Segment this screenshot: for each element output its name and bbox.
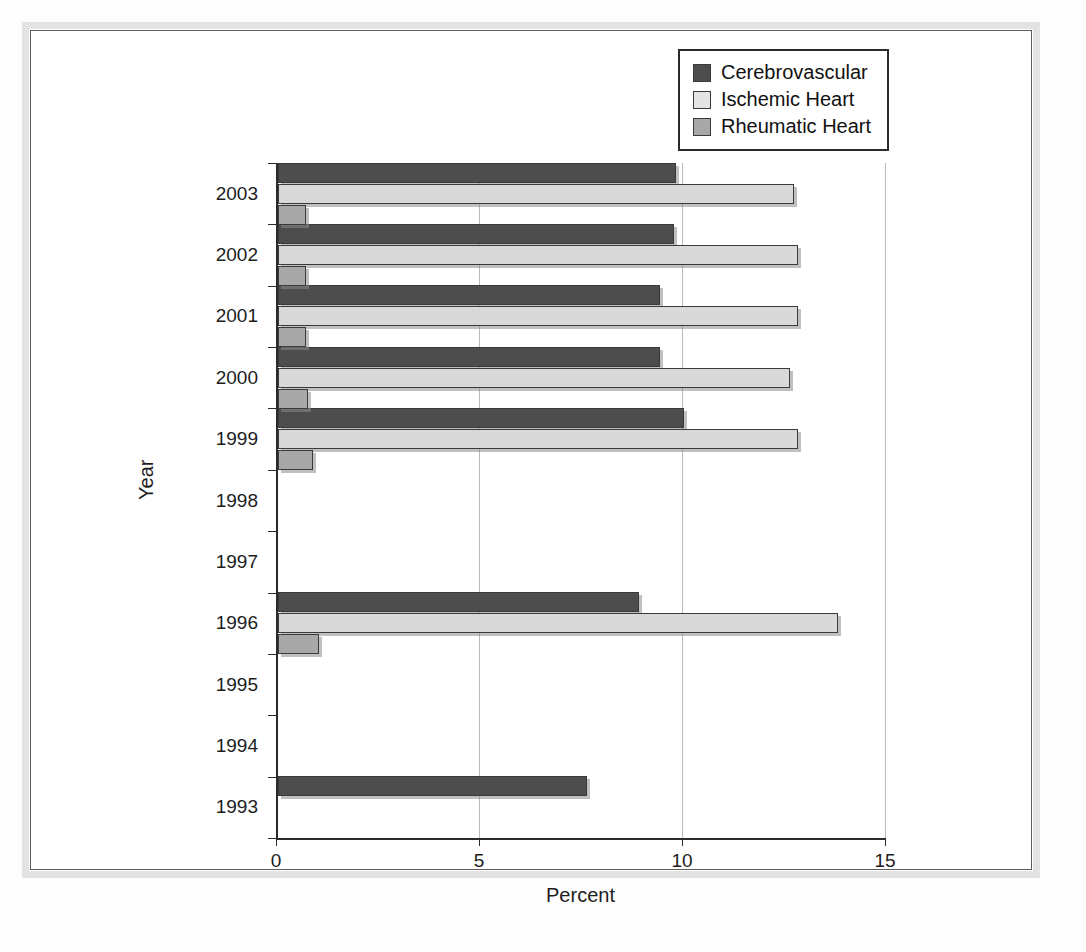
x-tick-label-5: 5: [474, 850, 485, 872]
bar-2003-ischemic-heart: [278, 184, 794, 204]
y-tick-label-2001: 2001: [216, 305, 258, 327]
x-tick-15: [885, 838, 886, 846]
x-axis-line: [276, 838, 885, 840]
bar-2000-ischemic-heart: [278, 368, 790, 388]
bar-1999-cerebrovascular: [278, 408, 684, 428]
y-tick-label-1997: 1997: [216, 551, 258, 573]
bar-2001-rheumatic-heart: [278, 327, 306, 347]
legend-swatch-icon-rheumatic: [693, 118, 711, 136]
legend-label: Ischemic Heart: [721, 88, 854, 111]
y-axis-line: [276, 163, 278, 840]
y-tick-label-2003: 2003: [216, 183, 258, 205]
x-tick-label-10: 10: [671, 850, 692, 872]
y-tick-label-1996: 1996: [216, 612, 258, 634]
bar-1993-cerebrovascular: [278, 776, 587, 796]
bar-1999-ischemic-heart: [278, 429, 798, 449]
chart-legend: CerebrovascularIschemic HeartRheumatic H…: [678, 49, 889, 151]
bar-1999-rheumatic-heart: [278, 450, 313, 470]
bar-chart-plot-area: 051015 199319941995199619971998199920002…: [0, 0, 1086, 952]
y-axis-title: Year: [135, 460, 158, 500]
bar-2000-rheumatic-heart: [278, 389, 308, 409]
legend-swatch-icon-cerebro: [693, 64, 711, 82]
y-tick-label-1999: 1999: [216, 428, 258, 450]
y-tick-label-1994: 1994: [216, 735, 258, 757]
gridline-15: [885, 163, 886, 838]
scanned-figure-page: 051015 199319941995199619971998199920002…: [0, 0, 1086, 952]
x-axis-title: Percent: [276, 884, 885, 907]
bar-2002-rheumatic-heart: [278, 266, 306, 286]
bar-1996-rheumatic-heart: [278, 634, 319, 654]
y-tick-label-2002: 2002: [216, 244, 258, 266]
legend-label: Cerebrovascular: [721, 61, 868, 84]
bar-2003-cerebrovascular: [278, 163, 676, 183]
y-tick-label-1993: 1993: [216, 796, 258, 818]
y-tick-label-1995: 1995: [216, 674, 258, 696]
bar-2001-cerebrovascular: [278, 285, 660, 305]
bar-2000-cerebrovascular: [278, 347, 660, 367]
y-tick-label-2000: 2000: [216, 367, 258, 389]
bar-1996-ischemic-heart: [278, 613, 838, 633]
legend-swatch-icon-ischemic: [693, 91, 711, 109]
legend-item-ischemic: Ischemic Heart: [693, 86, 871, 113]
legend-label: Rheumatic Heart: [721, 115, 871, 138]
bar-1996-cerebrovascular: [278, 592, 639, 612]
legend-item-rheumatic: Rheumatic Heart: [693, 113, 871, 140]
y-tick-label-1998: 1998: [216, 490, 258, 512]
bar-2003-rheumatic-heart: [278, 205, 306, 225]
x-tick-label-15: 15: [874, 850, 895, 872]
legend-item-cerebro: Cerebrovascular: [693, 59, 871, 86]
x-tick-label-0: 0: [271, 850, 282, 872]
bar-2001-ischemic-heart: [278, 306, 798, 326]
bar-2002-ischemic-heart: [278, 245, 798, 265]
bar-2002-cerebrovascular: [278, 224, 674, 244]
